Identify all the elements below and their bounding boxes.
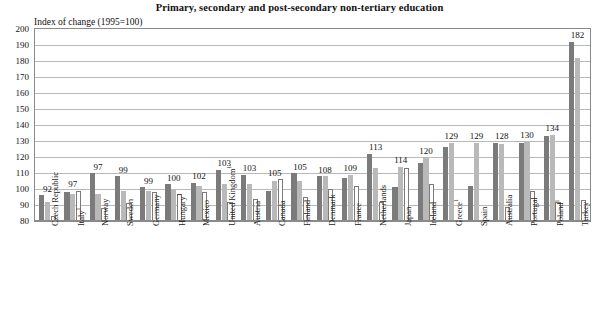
- x-label-sweden: Sweden: [125, 199, 135, 226]
- bar-series-1: [443, 147, 448, 221]
- x-label-netherlands: Netherlands: [378, 185, 388, 226]
- bar-group: 129: [443, 29, 460, 221]
- bar-group: 134: [544, 29, 561, 221]
- y-tick-100: 100: [16, 185, 30, 194]
- x-label-france: France: [353, 203, 363, 226]
- x-label-united-kingdom: United Kingdom1: [226, 166, 237, 226]
- bar-group: 114: [392, 29, 409, 221]
- x-axis-category-labels: Czech RepublicItaly1NorwaySwedenGermanyH…: [34, 224, 591, 322]
- data-label: 182: [565, 31, 590, 40]
- bar-series-1: [317, 176, 322, 221]
- y-tick-200: 200: [16, 25, 30, 34]
- plot-area: 9297979999100102103103105105108109113114…: [34, 28, 591, 222]
- data-label: 99: [136, 177, 161, 186]
- bar-series-2: [575, 58, 580, 221]
- bar-group: 120: [418, 29, 435, 221]
- x-label-turkey: Turkey: [580, 202, 590, 226]
- bar-series-1: [342, 178, 347, 221]
- x-label-spain: Spain: [479, 207, 489, 226]
- data-label: 108: [313, 166, 338, 175]
- bar-group: 129: [468, 29, 485, 221]
- data-label: 129: [464, 132, 489, 141]
- bar-series-1: [544, 136, 549, 221]
- data-label: 100: [161, 174, 186, 183]
- data-label: 105: [287, 163, 312, 172]
- data-label: 97: [86, 163, 111, 172]
- x-label-australia: Australia: [504, 195, 514, 226]
- x-label-denmark: Denmark: [327, 194, 337, 226]
- data-label: 130: [515, 131, 540, 140]
- y-axis-caption: Index of change (1995=100): [34, 17, 143, 27]
- bar-series-1: [519, 143, 524, 221]
- bar-group: 97: [64, 29, 81, 221]
- y-tick-130: 130: [16, 137, 30, 146]
- bar-group: 97: [90, 29, 107, 221]
- bar-series-1: [165, 184, 170, 221]
- bar-series-1: [291, 173, 296, 221]
- bar-group: 105: [291, 29, 308, 221]
- bar-series-1: [569, 42, 574, 221]
- bar-group: 102: [191, 29, 208, 221]
- data-label: 105: [262, 169, 287, 178]
- bar-series-1: [392, 187, 397, 221]
- bar-group: 128: [493, 29, 510, 221]
- bar-series-1: [90, 173, 95, 221]
- data-label: 103: [237, 164, 262, 173]
- y-tick-190: 190: [16, 41, 30, 50]
- bar-group: 99: [115, 29, 132, 221]
- bar-series-1: [216, 170, 221, 221]
- x-label-czech-republic: Czech Republic: [50, 172, 60, 226]
- data-label: 102: [187, 172, 212, 181]
- x-label-poland: Poland1: [554, 199, 565, 226]
- bar-group: 182: [569, 29, 586, 221]
- y-tick-120: 120: [16, 153, 30, 162]
- data-label: 113: [363, 143, 388, 152]
- bar-series-1: [39, 195, 44, 221]
- x-label-norway: Norway: [100, 199, 110, 226]
- bar-group: 108: [317, 29, 334, 221]
- y-tick-140: 140: [16, 121, 30, 130]
- x-label-italy: Italy1: [75, 207, 86, 226]
- data-label: 120: [414, 147, 439, 156]
- bar-series-1: [367, 154, 372, 221]
- data-label: 114: [388, 156, 413, 165]
- bar-series-1: [64, 192, 69, 221]
- x-label-hungary: Hungary1: [176, 193, 187, 226]
- y-tick-90: 90: [20, 201, 29, 210]
- x-label-austria: Austria: [252, 201, 262, 226]
- bar-group: 103: [241, 29, 258, 221]
- data-label: 99: [111, 166, 136, 175]
- x-label-canada: Canada: [277, 201, 287, 227]
- bar-series-1: [115, 176, 120, 221]
- data-label: 109: [338, 164, 363, 173]
- bar-series-1: [140, 187, 145, 221]
- data-label: 129: [439, 132, 464, 141]
- bar-series-1: [191, 183, 196, 221]
- bar-group: 100: [165, 29, 182, 221]
- y-tick-180: 180: [16, 57, 30, 66]
- y-tick-150: 150: [16, 105, 30, 114]
- bar-group: 109: [342, 29, 359, 221]
- bar-series-1: [266, 191, 271, 221]
- x-label-ireland: Ireland: [428, 202, 438, 226]
- x-label-germany: Germany: [151, 194, 161, 226]
- data-label: 128: [489, 132, 514, 141]
- x-label-mexico: Mexico: [201, 200, 211, 226]
- y-tick-170: 170: [16, 73, 30, 82]
- chart-title: Primary, secondary and post-secondary no…: [0, 2, 599, 13]
- bar-series-1: [493, 143, 498, 221]
- data-label: 97: [60, 180, 85, 189]
- bar-series-1: [418, 163, 423, 221]
- bar-group: 130: [519, 29, 536, 221]
- x-label-greece: Greece1: [453, 199, 464, 226]
- bar-group: 105: [266, 29, 283, 221]
- bar-group: 99: [140, 29, 157, 221]
- y-tick-80: 80: [20, 217, 29, 226]
- data-label: 134: [540, 124, 565, 133]
- y-tick-110: 110: [16, 169, 29, 178]
- chart-root: Primary, secondary and post-secondary no…: [0, 0, 599, 324]
- y-tick-160: 160: [16, 89, 30, 98]
- bar-series-1: [241, 175, 246, 221]
- x-label-portugal: Portugal: [529, 197, 539, 226]
- x-label-japan: Japan: [403, 207, 413, 226]
